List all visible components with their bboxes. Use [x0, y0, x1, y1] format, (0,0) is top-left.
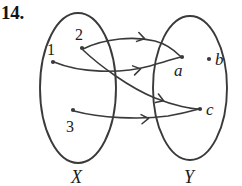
arrow-3-c: [74, 109, 199, 118]
element-label-2: 2: [75, 27, 83, 43]
domain-set-label: X: [71, 168, 82, 186]
arrow-3-c-head: [141, 114, 149, 124]
arrow-1-a: [54, 57, 181, 71]
arrow-2-a: [83, 38, 181, 57]
element-label-a: a: [174, 62, 183, 79]
element-label-3: 3: [66, 119, 74, 135]
codomain-set-ellipse: [153, 16, 227, 160]
element-label-1: 1: [47, 42, 55, 58]
element-dot-b: [207, 57, 211, 61]
element-label-b: b: [215, 51, 224, 68]
arrow-3-c-head-stroke: [141, 114, 149, 124]
diagram-canvas: [0, 0, 242, 186]
element-label-c: c: [206, 101, 214, 118]
codomain-set-label: Y: [184, 168, 194, 186]
function-arrow-diagram-figure: 14. X123Yabc: [0, 0, 242, 186]
